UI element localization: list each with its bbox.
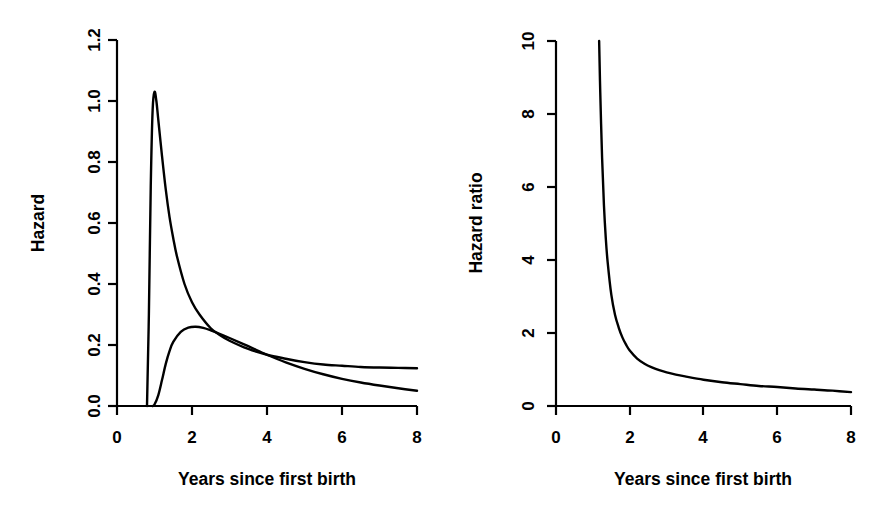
x-axis-title: Years since first birth (178, 469, 356, 489)
chart-panel-hazard-ratio: 0 2 4 6 8 10 0 2 4 6 8 Years since first… (448, 0, 895, 521)
y-axis-title: Hazard (28, 194, 48, 252)
x-axis-tick-labels: 0 2 4 6 8 (112, 428, 421, 447)
y-tick-label: 0 (519, 401, 538, 410)
series-path (599, 41, 851, 392)
y-tick-label: 1.2 (85, 28, 104, 52)
y-tick-label: 0.0 (85, 394, 104, 418)
x-tick-label: 4 (262, 428, 272, 447)
x-tick-label: 6 (337, 428, 346, 447)
x-tick-label: 4 (698, 428, 708, 447)
x-axis-title: Years since first birth (614, 469, 792, 489)
x-tick-label: 2 (625, 428, 634, 447)
hazard-ratio-plot-svg: 0 2 4 6 8 10 0 2 4 6 8 Years since first… (448, 0, 895, 521)
hazard-plot-svg: 0.0 0.2 0.4 0.6 0.8 1.0 1.2 0 2 4 6 8 Ye… (0, 0, 447, 521)
chart-panel-hazard: 0.0 0.2 0.4 0.6 0.8 1.0 1.2 0 2 4 6 8 Ye… (0, 0, 447, 521)
y-axis-ticks (547, 41, 556, 406)
y-tick-label: 0.8 (85, 150, 104, 174)
y-tick-label: 0.4 (85, 272, 104, 296)
y-tick-label: 6 (519, 182, 538, 191)
y-tick-label: 10 (519, 32, 538, 51)
y-axis-title: Hazard ratio (466, 172, 486, 273)
series-path (147, 92, 417, 406)
y-tick-label: 2 (519, 328, 538, 337)
x-tick-label: 0 (551, 428, 560, 447)
x-axis-tick-labels: 0 2 4 6 8 (551, 428, 855, 447)
x-axis-ticks (117, 406, 417, 415)
x-axis-ticks (556, 406, 851, 415)
y-tick-label: 4 (519, 255, 538, 265)
y-axis-tick-labels: 0.0 0.2 0.4 0.6 0.8 1.0 1.2 (85, 28, 104, 418)
x-tick-label: 6 (772, 428, 781, 447)
y-tick-label: 8 (519, 109, 538, 118)
x-tick-label: 8 (846, 428, 855, 447)
y-axis-tick-labels: 0 2 4 6 8 10 (519, 32, 538, 411)
x-tick-label: 8 (412, 428, 421, 447)
y-axis-ticks (108, 40, 117, 406)
y-tick-label: 0.2 (85, 333, 104, 357)
y-tick-label: 0.6 (85, 211, 104, 235)
figure-canvas: 0.0 0.2 0.4 0.6 0.8 1.0 1.2 0 2 4 6 8 Ye… (0, 0, 895, 521)
y-tick-label: 1.0 (85, 89, 104, 113)
x-tick-label: 2 (187, 428, 196, 447)
x-tick-label: 0 (112, 428, 121, 447)
